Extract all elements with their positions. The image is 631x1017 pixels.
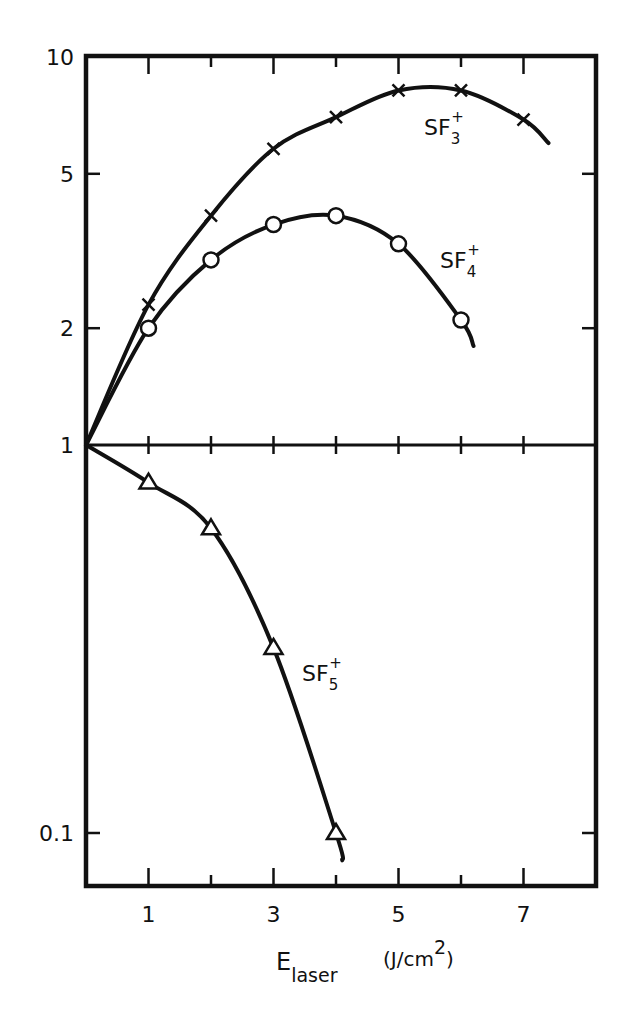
x-tick-label: 1	[142, 902, 156, 927]
x-axis-label-sub: laser	[291, 964, 338, 986]
circle-marker	[391, 236, 406, 251]
svg-text:Elaser: Elaser	[276, 948, 338, 986]
circle-marker	[204, 252, 219, 267]
chart: 1357105210.1 SF3+SF4+SF5+ Elaser (J/cm2)	[0, 0, 631, 1017]
triangle-marker	[265, 639, 283, 654]
series-markers	[140, 84, 530, 839]
series-curves	[86, 87, 549, 860]
x-axis-unit-prefix: (J/cm	[383, 947, 434, 971]
circle-marker	[329, 208, 344, 223]
x-marker	[205, 210, 217, 222]
y-tick-label: 2	[60, 316, 74, 341]
x-tick-label: 3	[267, 902, 281, 927]
curve-sf5-plus	[86, 445, 343, 860]
curve-sf3-plus	[86, 87, 549, 445]
plot-frame	[86, 56, 596, 886]
x-marker	[518, 114, 530, 126]
series-label: SF5+	[302, 654, 342, 694]
x-tick-label: 7	[517, 902, 531, 927]
series-label: SF4+	[440, 241, 480, 281]
x-axis-label-main: E	[276, 948, 291, 976]
triangle-marker	[327, 824, 345, 839]
triangle-marker	[140, 474, 158, 489]
y-tick-label: 10	[46, 45, 74, 70]
circle-marker	[454, 312, 469, 327]
circle-marker	[266, 217, 281, 232]
axis-ticks	[86, 56, 596, 886]
series-labels: SF3+SF4+SF5+	[302, 108, 480, 694]
x-tick-label: 5	[392, 902, 406, 927]
y-tick-label: 1	[60, 433, 74, 458]
y-tick-label: 0.1	[39, 821, 74, 846]
circle-marker	[141, 321, 156, 336]
series-label: SF3+	[424, 108, 464, 148]
y-tick-label: 5	[60, 162, 74, 187]
x-axis-label: Elaser (J/cm2)	[276, 936, 454, 986]
tick-labels: 1357105210.1	[39, 45, 531, 927]
x-axis-unit-sup: 2	[434, 936, 446, 958]
x-marker	[268, 143, 280, 155]
x-axis-unit-suffix: )	[446, 947, 454, 971]
plot-border	[86, 56, 596, 886]
svg-text:(J/cm2): (J/cm2)	[383, 936, 454, 971]
